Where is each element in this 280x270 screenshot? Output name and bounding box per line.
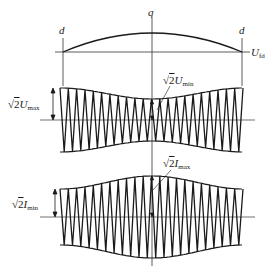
- label-u-fd: Ufd: [251, 47, 265, 60]
- upper-envelope: [60, 88, 242, 99]
- label-sqrt2-imin: √2Imin: [12, 199, 38, 212]
- umax-dimension-arrow: [51, 88, 55, 120]
- label-d-left: d: [59, 25, 65, 36]
- label-q: q: [148, 7, 154, 18]
- imin-dimension-arrow: [53, 189, 57, 217]
- voltage-distribution-arc: [63, 33, 242, 52]
- label-sqrt2-umax: √2Umax: [8, 99, 40, 112]
- label-sqrt2-imax: √2Imax: [163, 158, 190, 171]
- envelope-diagram: [0, 0, 280, 270]
- label-d-right: d: [239, 25, 245, 36]
- lower-envelope: [60, 245, 242, 258]
- label-sqrt2-umin: √2Umin: [163, 75, 193, 88]
